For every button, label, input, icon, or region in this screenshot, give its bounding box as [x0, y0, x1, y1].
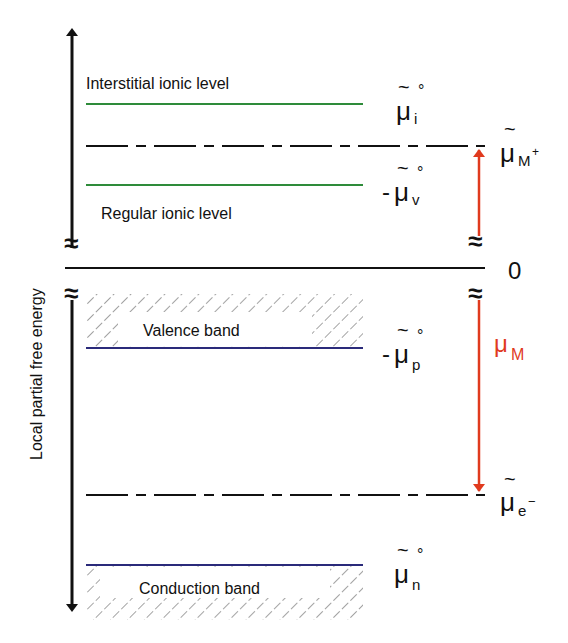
right-break-lower: ≈: [468, 278, 482, 308]
mu-M-plus-level: ~ μ M +: [86, 118, 539, 169]
svg-text:~: ~: [398, 76, 410, 98]
svg-text:°: °: [417, 164, 423, 181]
mu-p-symbol: - ~ μ ° p: [382, 319, 423, 373]
svg-text:−: −: [528, 494, 536, 509]
conduction-label: Conduction band: [139, 580, 260, 597]
regular-level: Regular ionic level - ~ μ ° v: [86, 157, 423, 222]
mu-n-symbol: ~ μ ° n: [394, 539, 423, 593]
mu-M-label: μ M: [494, 330, 524, 363]
svg-text:μ: μ: [394, 559, 409, 589]
svg-text:~: ~: [397, 539, 409, 561]
svg-text:-: -: [382, 340, 390, 367]
regular-label: Regular ionic level: [101, 205, 232, 222]
interstitial-level: Interstitial ionic level ~ μ ° i: [86, 75, 424, 127]
mu-M-arrows: ≈ ≈ μ M: [468, 150, 524, 491]
svg-text:°: °: [417, 327, 423, 344]
axis-break-lower: ≈: [64, 278, 78, 308]
mu-v-symbol: - ~ μ ° v: [382, 157, 423, 208]
svg-text:μ: μ: [500, 487, 515, 517]
svg-text:~: ~: [397, 319, 409, 341]
svg-text:+: +: [532, 145, 539, 159]
zero-level: 0: [65, 257, 521, 284]
svg-text:~: ~: [397, 157, 409, 179]
svg-text:i: i: [414, 110, 417, 127]
valence-label: Valence band: [143, 322, 240, 339]
svg-text:°: °: [418, 82, 424, 99]
valence-band: Valence band - ~ μ ° p: [86, 294, 423, 373]
svg-text:μ: μ: [494, 330, 508, 357]
svg-text:μ: μ: [500, 138, 515, 168]
energy-axis: ≈ ≈ Local partial free energy: [28, 32, 78, 608]
mu-e-minus-level: ~ μ e −: [86, 468, 536, 519]
svg-text:p: p: [412, 356, 420, 373]
svg-text:°: °: [417, 546, 423, 563]
svg-text:M: M: [511, 346, 524, 363]
energy-level-diagram: ≈ ≈ Local partial free energy Interstiti…: [0, 0, 568, 643]
mu-e-minus-symbol: ~ μ e −: [500, 468, 536, 519]
svg-text:μ: μ: [396, 96, 411, 126]
mu-i-symbol: ~ μ ° i: [396, 76, 424, 127]
svg-text:μ: μ: [394, 339, 409, 369]
axis-label: Local partial free energy: [28, 288, 45, 460]
svg-text:M: M: [518, 152, 531, 169]
right-break-upper: ≈: [468, 226, 482, 256]
interstitial-label: Interstitial ionic level: [86, 75, 229, 92]
svg-text:-: -: [382, 178, 390, 205]
svg-text:e: e: [518, 502, 526, 519]
svg-text:n: n: [412, 576, 420, 593]
svg-text:v: v: [412, 191, 420, 208]
conduction-band: Conduction band ~ μ ° n: [86, 539, 423, 620]
axis-break-upper: ≈: [64, 228, 78, 258]
svg-text:μ: μ: [394, 177, 409, 207]
zero-label: 0: [508, 257, 521, 284]
svg-text:~: ~: [504, 118, 516, 140]
mu-M-plus-symbol: ~ μ M +: [500, 118, 539, 169]
